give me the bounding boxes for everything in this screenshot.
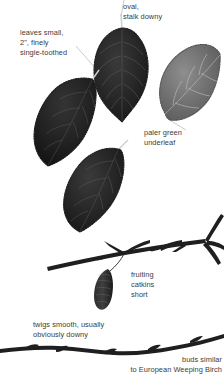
fruiting-catkin [94,269,113,310]
label-paler-green-underleaf: paler green underleaf [144,128,182,148]
leaf-center-lower [64,140,128,232]
label-fruiting-catkins-short: fruiting catkins short [131,270,154,301]
label-oval-stalk-downy: oval, stalk downy [123,2,162,22]
leaf-top-center [94,14,148,122]
botanical-illustration-plate: oval, stalk downy leaves small, 2", fine… [0,0,224,383]
label-buds-similar: buds similar to European Weeping Birch [131,355,223,375]
label-twigs-smooth-downy: twigs smooth, usually obviously downy [33,320,104,340]
label-leaves-small: leaves small, 2", finely single-toothed [20,28,67,59]
leaf-right-underside [160,44,221,121]
leaf-left [34,70,99,166]
